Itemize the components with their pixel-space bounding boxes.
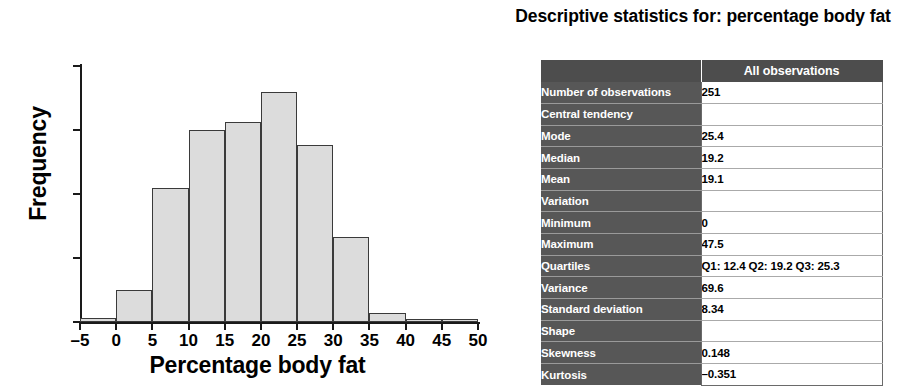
x-tick xyxy=(441,322,443,330)
x-axis-title: Percentage body fat xyxy=(60,352,455,379)
stat-label-cell: Shape xyxy=(541,320,701,342)
stat-value-cell: Q1: 12.4 Q2: 19.2 Q3: 25.3 xyxy=(701,255,882,277)
x-tick-label: –5 xyxy=(60,331,100,351)
histogram-bar xyxy=(369,313,405,322)
histogram-bar xyxy=(297,145,333,322)
stat-label-cell: Maximum xyxy=(541,234,701,256)
histogram-bar xyxy=(225,122,261,322)
stat-label-cell: Standard deviation xyxy=(541,299,701,321)
table-row: Standard deviation8.34 xyxy=(541,299,882,321)
histogram-bar xyxy=(442,319,478,322)
stat-value-cell: 69.6 xyxy=(701,277,882,299)
stat-label-cell: Number of observations xyxy=(541,82,701,104)
table-row: Median19.2 xyxy=(541,147,882,169)
stat-label-cell: Skewness xyxy=(541,342,701,364)
table-title: Descriptive statistics for: percentage b… xyxy=(508,6,898,27)
x-tick-label: 40 xyxy=(386,331,426,351)
x-tick-label: 10 xyxy=(169,331,209,351)
stat-label-cell: Variance xyxy=(541,277,701,299)
stat-label-cell: Kurtosis xyxy=(541,364,701,386)
x-tick xyxy=(115,322,117,330)
stat-value-cell: –0.351 xyxy=(701,364,882,386)
x-tick xyxy=(79,322,81,330)
table-row: QuartilesQ1: 12.4 Q2: 19.2 Q3: 25.3 xyxy=(541,255,882,277)
y-tick xyxy=(73,257,81,259)
y-tick xyxy=(73,193,81,195)
y-axis-title: Frequency xyxy=(25,64,52,264)
table-row: Maximum47.5 xyxy=(541,234,882,256)
x-tick-label: 25 xyxy=(277,331,317,351)
x-tick xyxy=(405,322,407,330)
x-tick-label: 50 xyxy=(458,331,498,351)
table-row: Shape xyxy=(541,320,882,342)
y-tick xyxy=(73,65,81,67)
x-tick-label: 5 xyxy=(132,331,172,351)
x-tick-label: 30 xyxy=(313,331,353,351)
table-row: Variance69.6 xyxy=(541,277,882,299)
stat-label-cell: Minimum xyxy=(541,212,701,234)
x-tick xyxy=(188,322,190,330)
histogram-panel: Frequency Percentage body fat 015304560 … xyxy=(0,0,500,392)
stat-label-cell: Mean xyxy=(541,168,701,190)
x-tick xyxy=(332,322,334,330)
histogram-bar xyxy=(189,130,225,322)
stat-label-cell: Variation xyxy=(541,190,701,212)
x-tick-label: 45 xyxy=(422,331,462,351)
table-row: Kurtosis–0.351 xyxy=(541,364,882,386)
table-header-label-cell xyxy=(541,60,701,82)
table-row: Central tendency xyxy=(541,103,882,125)
y-tick xyxy=(73,129,81,131)
stat-label-cell: Quartiles xyxy=(541,255,701,277)
x-tick-label: 35 xyxy=(349,331,389,351)
x-tick xyxy=(296,322,298,330)
table-row: Skewness0.148 xyxy=(541,342,882,364)
x-tick-label: 0 xyxy=(96,331,136,351)
statistics-panel: Descriptive statistics for: percentage b… xyxy=(500,0,900,392)
stat-value-cell: 25.4 xyxy=(701,125,882,147)
histogram-bar xyxy=(80,318,116,322)
x-tick xyxy=(224,322,226,330)
stat-value-cell xyxy=(701,320,882,342)
table-row: Minimum0 xyxy=(541,212,882,234)
descriptive-statistics-table: All observationsNumber of observations25… xyxy=(541,60,883,386)
stat-label-cell: Mode xyxy=(541,125,701,147)
stat-value-cell: 8.34 xyxy=(701,299,882,321)
stat-value-cell xyxy=(701,103,882,125)
table-row: Variation xyxy=(541,190,882,212)
stat-value-cell xyxy=(701,190,882,212)
stat-label-cell: Median xyxy=(541,147,701,169)
histogram-bar xyxy=(333,237,369,322)
table-header-row: All observations xyxy=(541,60,882,82)
stat-value-cell: 47.5 xyxy=(701,234,882,256)
histogram-bar xyxy=(152,188,188,322)
x-tick-label: 20 xyxy=(241,331,281,351)
stat-value-cell: 19.1 xyxy=(701,168,882,190)
stat-label-cell: Central tendency xyxy=(541,103,701,125)
histogram-bar xyxy=(261,92,297,322)
stat-value-cell: 19.2 xyxy=(701,147,882,169)
histogram-bar xyxy=(406,319,442,322)
table-row: Mode25.4 xyxy=(541,125,882,147)
stat-value-cell: 0.148 xyxy=(701,342,882,364)
histogram-bar xyxy=(116,290,152,322)
x-tick-label: 15 xyxy=(205,331,245,351)
x-tick xyxy=(151,322,153,330)
x-tick xyxy=(368,322,370,330)
x-tick xyxy=(477,322,479,330)
table-row: Number of observations251 xyxy=(541,82,882,104)
x-tick xyxy=(260,322,262,330)
table-header-value-cell: All observations xyxy=(701,60,882,82)
stat-value-cell: 251 xyxy=(701,82,882,104)
stat-value-cell: 0 xyxy=(701,212,882,234)
table-row: Mean19.1 xyxy=(541,168,882,190)
